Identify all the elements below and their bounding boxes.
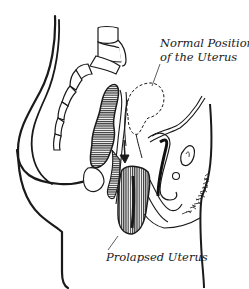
- body-outline: [17, 16, 88, 288]
- normal-position-label-line2: of the Uterus: [160, 50, 249, 64]
- small-structure: [173, 173, 180, 180]
- uterine-cavity: [132, 176, 134, 228]
- normal-position-label-line1: Normal Position: [160, 36, 249, 50]
- normal-position-label: Normal Position of the Uterus: [160, 36, 249, 64]
- prolapsed-label-pointer: [108, 236, 118, 250]
- bladder-wall-thick: [158, 140, 167, 196]
- ovary: [84, 168, 105, 192]
- normal-label-pointer: [152, 64, 160, 86]
- normal-uterus-outline: [127, 83, 164, 134]
- bladder: [152, 133, 177, 200]
- prolapse-diagram: Normal Position of the Uterus Prolapsed …: [0, 0, 249, 289]
- prolapsed-uterus-label: Prolapsed Uterus: [106, 250, 208, 264]
- pubic-bone: [181, 146, 195, 166]
- pubic-hair: [182, 173, 209, 214]
